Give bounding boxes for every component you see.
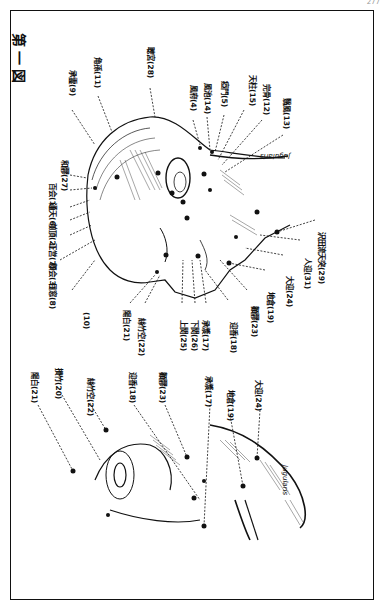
label-daigei-lower: 大迎(24) xyxy=(255,380,263,411)
label-fuchi: 風池(14) xyxy=(204,83,212,114)
neck-annotation-upper: Jugularis xyxy=(260,152,290,159)
neck-annotation-lower: Jugularis xyxy=(281,465,288,495)
label-shosho-lower: 承漿(17) xyxy=(205,376,213,407)
label-waryo: 和髎(27) xyxy=(61,160,69,191)
label-kenryo-upper: 顴髎(23) xyxy=(251,306,259,337)
label-10: (10) xyxy=(83,312,91,329)
label-kakuson: 角孫(11) xyxy=(94,57,102,88)
label-mokuso: 目窓(8) xyxy=(49,283,57,309)
label-sanchiku: 攅竹(20) xyxy=(55,368,63,399)
label-gekan: 下関(26) xyxy=(191,320,199,351)
label-shichikukuu-upper: 絲竹空(22) xyxy=(138,318,146,356)
label-sawada-tentotsu: 沢田流天突(29) xyxy=(318,232,326,284)
label-chokyu: 聴宮(28) xyxy=(147,47,155,78)
label-kenryo-lower: 顴髎(23) xyxy=(159,372,167,403)
label-geiko-lower: 迎香(18) xyxy=(129,372,137,403)
label-yohaku-upper: 陽白(21) xyxy=(123,310,131,341)
label-kankotsu: 完骨(12) xyxy=(263,84,271,115)
label-jokan: 上関(25) xyxy=(180,320,188,351)
label-yohaku-lower: 陽白(21) xyxy=(31,372,39,403)
label-eifu: 翳風(13) xyxy=(283,98,291,129)
label-daigei-upper: 大迎(24) xyxy=(286,276,294,307)
label-geiko-upper: 迎香(18) xyxy=(230,322,238,353)
label-chiso-lower: 地倉(19) xyxy=(227,390,235,421)
label-tenchu: 天柱(15) xyxy=(249,75,257,106)
label-chiso-upper: 地倉(19) xyxy=(267,292,275,323)
label-shosho-upper: 承漿(17) xyxy=(202,320,210,351)
label-fufu: 風府(4) xyxy=(190,85,198,111)
label-shichikukuu-lower: 絲竹空(22) xyxy=(87,378,95,416)
label-jingei: 人迎(31) xyxy=(304,258,312,289)
label-shorei: 承霊(9) xyxy=(69,70,77,96)
label-amon: 瘂門(5) xyxy=(221,81,229,107)
